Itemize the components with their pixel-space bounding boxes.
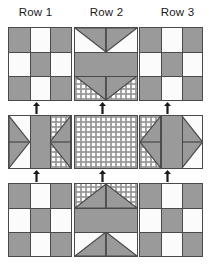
- patch: [75, 232, 137, 256]
- arrow-cell: [139, 169, 205, 183]
- patch: [182, 116, 203, 168]
- patch: [30, 28, 51, 52]
- arrows-lower: [8, 169, 205, 183]
- patch: [75, 184, 137, 208]
- patch: [30, 232, 51, 256]
- column-header-row-3: Row 3: [142, 4, 213, 20]
- patch: [161, 208, 182, 232]
- row3-middle-block[interactable]: [139, 115, 203, 169]
- arrow-up-icon: [98, 170, 107, 182]
- patch: [140, 28, 161, 52]
- row1-bottom-block[interactable]: [8, 183, 72, 257]
- patch: [140, 232, 161, 256]
- patch: [9, 76, 30, 100]
- cell-row2-bottom: [74, 183, 140, 257]
- patch: [140, 184, 161, 208]
- patch: [140, 76, 161, 100]
- patch: [161, 28, 182, 52]
- patch: [50, 116, 71, 168]
- geese-down-triangles: [75, 76, 137, 100]
- patch: [9, 232, 30, 256]
- cell-row1-bottom: [8, 183, 74, 257]
- arrow-cell: [74, 101, 140, 115]
- top-band: [8, 27, 205, 101]
- bottom-band: [8, 183, 205, 257]
- patch: [182, 232, 203, 256]
- column-header-row-2: Row 2: [71, 4, 142, 20]
- patch: [182, 208, 203, 232]
- patch: [75, 28, 137, 52]
- geese-up-triangles: [75, 184, 137, 208]
- cell-row1-middle: [8, 115, 74, 169]
- cell-row3-middle: [139, 115, 205, 169]
- arrow-cell: [74, 169, 140, 183]
- arrow-cell: [8, 169, 74, 183]
- row2-middle-block[interactable]: [74, 115, 138, 169]
- patch: [75, 208, 137, 232]
- arrow-up-icon: [163, 102, 172, 114]
- patch: [140, 208, 161, 232]
- patch: [161, 52, 182, 76]
- patch: [75, 52, 137, 76]
- patch: [50, 184, 71, 208]
- row2-bottom-block[interactable]: [74, 183, 138, 257]
- column-header-row-1: Row 1: [0, 4, 71, 20]
- arrows-upper: [8, 101, 205, 115]
- patch: [182, 28, 203, 52]
- figure-caption: [0, 262, 213, 269]
- middle-band: [8, 115, 205, 169]
- arrow-up-icon: [32, 102, 41, 114]
- patch: [50, 28, 71, 52]
- triangle-right-icon: [9, 116, 30, 168]
- patch: [30, 116, 51, 168]
- patch: [75, 76, 137, 100]
- row3-top-block[interactable]: [139, 27, 203, 101]
- row3-bottom-block[interactable]: [139, 183, 203, 257]
- patch: [140, 52, 161, 76]
- triangle-left-icon: [50, 116, 71, 168]
- patch: [9, 28, 30, 52]
- cell-row3-bottom: [139, 183, 205, 257]
- patch: [161, 184, 182, 208]
- triangle-left-icon: [140, 116, 161, 168]
- patch: [9, 52, 30, 76]
- cell-row2-top: [74, 27, 140, 101]
- geese-down-triangles: [75, 28, 137, 52]
- row2-top-block[interactable]: [74, 27, 138, 101]
- column-headers: Row 1 Row 2 Row 3: [0, 4, 213, 20]
- patch: [9, 208, 30, 232]
- patch: [182, 76, 203, 100]
- arrow-up-icon: [163, 170, 172, 182]
- arrow-cell: [139, 101, 205, 115]
- patch: [50, 232, 71, 256]
- arrow-cell: [8, 101, 74, 115]
- patch: [182, 184, 203, 208]
- patch: [50, 52, 71, 76]
- patch: [161, 116, 182, 168]
- cell-row1-top: [8, 27, 74, 101]
- patch: [30, 208, 51, 232]
- quilt-assembly-grid: [8, 27, 205, 257]
- patch: [161, 232, 182, 256]
- patch: [9, 184, 30, 208]
- triangle-right-icon: [182, 116, 203, 168]
- row1-top-block[interactable]: [8, 27, 72, 101]
- diagram-page: Row 1 Row 2 Row 3: [0, 0, 213, 269]
- patch: [30, 76, 51, 100]
- patch: [30, 184, 51, 208]
- arrow-up-icon: [32, 170, 41, 182]
- cell-row3-top: [139, 27, 205, 101]
- patch: [9, 116, 30, 168]
- cell-row2-middle: [74, 115, 140, 169]
- row1-middle-block[interactable]: [8, 115, 72, 169]
- patch: [50, 76, 71, 100]
- patch: [30, 52, 51, 76]
- geese-up-triangles: [75, 232, 137, 256]
- patch: [50, 208, 71, 232]
- patch: [161, 76, 182, 100]
- patch: [182, 52, 203, 76]
- patch: [140, 116, 161, 168]
- arrow-up-icon: [98, 102, 107, 114]
